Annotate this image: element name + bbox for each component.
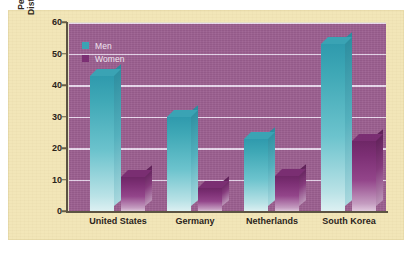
y-axis-line <box>66 22 68 213</box>
x-tick-label-germany: Germany <box>175 216 214 226</box>
bar-women-south-korea <box>352 141 376 212</box>
bar-men-united-states <box>90 76 114 212</box>
bar-side <box>376 129 383 206</box>
bar-men-netherlands <box>244 139 268 212</box>
x-axis-line <box>66 211 388 213</box>
x-tick-label-netherlands: Netherlands <box>246 216 298 226</box>
y-tick-label: 10 <box>28 175 62 185</box>
bar-side <box>268 127 275 206</box>
x-tick-label-south-korea: South Korea <box>322 216 376 226</box>
bar-face <box>321 44 345 212</box>
bar-side <box>114 64 121 206</box>
bar-side <box>345 32 352 206</box>
chart-figure: Percentage Reporting More Distress over … <box>0 0 416 254</box>
legend-swatch-women-icon <box>82 55 89 62</box>
plot-area: Men Women <box>68 22 386 212</box>
bar-side <box>191 105 198 206</box>
bar-women-netherlands <box>275 176 299 212</box>
bar-women-germany <box>198 188 222 212</box>
chart-legend: Men Women <box>82 39 125 65</box>
bar-face <box>352 141 376 212</box>
legend-swatch-men-icon <box>82 42 89 49</box>
y-tick-label: 30 <box>28 112 62 122</box>
legend-item-men: Men <box>82 39 125 52</box>
bar-face <box>244 139 268 212</box>
x-tick-label-united-states: United States <box>89 216 147 226</box>
bar-face <box>275 176 299 212</box>
bar-face <box>198 188 222 212</box>
bar-men-germany <box>167 117 191 212</box>
y-tick-label: 0 <box>28 206 62 216</box>
legend-label-women: Women <box>95 54 125 64</box>
bar-face <box>121 177 145 212</box>
y-tick-label: 20 <box>28 143 62 153</box>
gridline-60 <box>68 22 386 24</box>
bar-men-south-korea <box>321 44 345 212</box>
bar-face <box>90 76 114 212</box>
y-tick-label: 50 <box>28 49 62 59</box>
legend-item-women: Women <box>82 52 125 65</box>
legend-label-men: Men <box>95 41 112 51</box>
y-axis-title-line-2: Distress over Sexual Infidelity <box>27 0 37 15</box>
y-tick-label: 40 <box>28 80 62 90</box>
bar-face <box>167 117 191 212</box>
y-tick-label: 60 <box>28 17 62 27</box>
bar-women-united-states <box>121 177 145 212</box>
